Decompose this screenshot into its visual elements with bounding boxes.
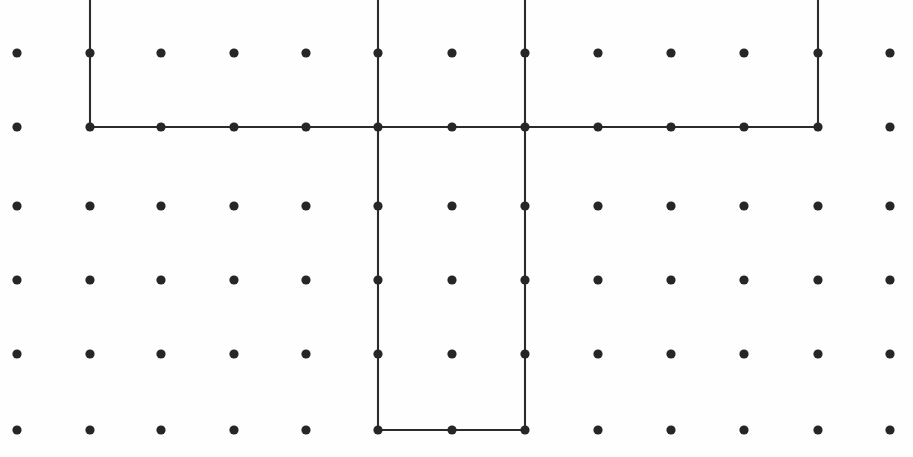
grid-dot-r3-c7[interactable] [520,275,529,284]
grid-dot-r2-c12[interactable] [885,201,894,210]
grid-dot-r0-c1[interactable] [85,48,94,57]
grid-dot-r4-c12[interactable] [885,349,894,358]
grid-dot-r0-c7[interactable] [520,48,529,57]
grid-dot-r5-c2[interactable] [156,425,165,434]
grid-dot-r5-c6[interactable] [447,425,456,434]
grid-dot-r0-c10[interactable] [739,48,748,57]
grid-dot-r2-c11[interactable] [813,201,822,210]
grid-dot-r5-c4[interactable] [301,425,310,434]
grid-dot-r4-c2[interactable] [156,349,165,358]
dot-grid-figure [0,0,913,457]
grid-dot-r2-c0[interactable] [12,201,21,210]
grid-dot-r0-c6[interactable] [447,48,456,57]
grid-dot-r1-c10[interactable] [739,122,748,131]
grid-dot-r0-c2[interactable] [156,48,165,57]
grid-dot-r5-c5[interactable] [373,425,382,434]
grid-dot-r3-c8[interactable] [593,275,602,284]
grid-dot-r5-c7[interactable] [520,425,529,434]
grid-dot-r3-c10[interactable] [739,275,748,284]
grid-dot-r0-c9[interactable] [666,48,675,57]
grid-dot-r3-c2[interactable] [156,275,165,284]
grid-dot-r4-c9[interactable] [666,349,675,358]
grid-dot-r1-c2[interactable] [156,122,165,131]
grid-dot-r4-c11[interactable] [813,349,822,358]
grid-dot-r4-c7[interactable] [520,349,529,358]
grid-dot-r4-c0[interactable] [12,349,21,358]
grid-dot-r5-c9[interactable] [666,425,675,434]
grid-dot-r4-c3[interactable] [229,349,238,358]
figure-canvas [0,0,913,457]
grid-dot-r2-c9[interactable] [666,201,675,210]
grid-dot-r3-c3[interactable] [229,275,238,284]
grid-dot-r3-c12[interactable] [885,275,894,284]
grid-dot-r2-c2[interactable] [156,201,165,210]
grid-dot-r4-c1[interactable] [85,349,94,358]
grid-dot-r5-c8[interactable] [593,425,602,434]
grid-dot-r2-c3[interactable] [229,201,238,210]
grid-dot-r2-c10[interactable] [739,201,748,210]
grid-dot-r1-c6[interactable] [447,122,456,131]
grid-dot-r5-c1[interactable] [85,425,94,434]
grid-dot-r2-c7[interactable] [520,201,529,210]
grid-dot-r0-c4[interactable] [301,48,310,57]
grid-dot-r5-c11[interactable] [813,425,822,434]
grid-dot-r2-c1[interactable] [85,201,94,210]
grid-dot-r5-c12[interactable] [885,425,894,434]
grid-dot-r1-c4[interactable] [301,122,310,131]
grid-dot-r5-c3[interactable] [229,425,238,434]
grid-dot-r5-c10[interactable] [739,425,748,434]
grid-dot-r4-c5[interactable] [373,349,382,358]
grid-dot-r4-c6[interactable] [447,349,456,358]
grid-dot-r0-c5[interactable] [373,48,382,57]
grid-dot-r2-c8[interactable] [593,201,602,210]
grid-dot-r3-c9[interactable] [666,275,675,284]
grid-dot-r3-c1[interactable] [85,275,94,284]
grid-dot-r1-c5[interactable] [373,122,382,131]
grid-dot-r3-c5[interactable] [373,275,382,284]
grid-dot-r1-c12[interactable] [885,122,894,131]
grid-dot-r1-c0[interactable] [12,122,21,131]
grid-dot-r0-c11[interactable] [813,48,822,57]
grid-dot-r4-c8[interactable] [593,349,602,358]
grid-dot-r1-c7[interactable] [520,122,529,131]
grid-dot-r3-c4[interactable] [301,275,310,284]
grid-dot-r0-c12[interactable] [885,48,894,57]
grid-dot-r3-c6[interactable] [447,275,456,284]
grid-dot-r0-c3[interactable] [229,48,238,57]
grid-dot-r1-c8[interactable] [593,122,602,131]
grid-dot-r0-c8[interactable] [593,48,602,57]
grid-dot-r4-c4[interactable] [301,349,310,358]
grid-dot-r1-c1[interactable] [85,122,94,131]
grid-dot-r0-c0[interactable] [12,48,21,57]
grid-dot-r3-c11[interactable] [813,275,822,284]
grid-dot-r5-c0[interactable] [12,425,21,434]
grid-dot-r2-c5[interactable] [373,201,382,210]
grid-dot-r4-c10[interactable] [739,349,748,358]
grid-dot-r2-c4[interactable] [301,201,310,210]
grid-dot-r2-c6[interactable] [447,201,456,210]
grid-dot-r1-c11[interactable] [813,122,822,131]
figure-background [0,0,913,457]
grid-dot-r1-c3[interactable] [229,122,238,131]
grid-dot-r3-c0[interactable] [12,275,21,284]
grid-dot-r1-c9[interactable] [666,122,675,131]
